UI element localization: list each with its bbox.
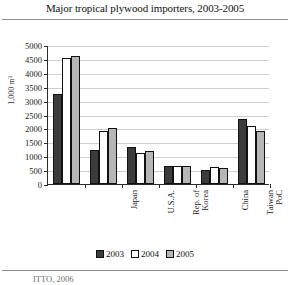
bar — [108, 128, 117, 184]
x-axis-label: TaiwanPoC — [266, 190, 284, 236]
bar-group — [233, 46, 270, 184]
bar-group — [122, 46, 159, 184]
y-tick-mark — [44, 185, 48, 186]
x-tick-mark — [233, 184, 234, 188]
chart-legend: 200320042005 — [0, 249, 290, 259]
bar-groups — [48, 46, 269, 184]
y-axis-title: 1,000 m³ — [7, 56, 16, 126]
legend-swatch — [166, 250, 174, 258]
page-title: Major tropical plywood importers, 2003-2… — [0, 2, 290, 15]
x-tick-mark — [196, 184, 197, 188]
y-tick-label: 4500 — [25, 56, 42, 65]
source-note: ITTO, 2006 — [33, 274, 73, 284]
legend-item[interactable]: 2003 — [96, 249, 124, 259]
legend-swatch — [96, 250, 104, 258]
bar — [136, 153, 145, 184]
footer-divider — [2, 270, 288, 271]
bar-group — [48, 46, 85, 184]
bar — [71, 56, 80, 184]
y-tick-label: 2500 — [25, 111, 42, 120]
bar — [182, 166, 191, 184]
bar — [201, 170, 210, 184]
y-tick-label: 2000 — [25, 125, 42, 134]
bar — [127, 147, 136, 184]
x-axis-label: Japan — [130, 190, 139, 250]
y-tick-label: 4000 — [25, 70, 42, 79]
y-tick-label: 500 — [29, 167, 42, 176]
bar-group — [159, 46, 196, 184]
bar — [62, 58, 71, 184]
bar — [164, 166, 173, 184]
x-axis-label: U.S.A. — [167, 190, 176, 250]
bar — [247, 126, 256, 184]
x-tick-mark — [159, 184, 160, 188]
bar — [210, 167, 219, 184]
legend-item[interactable]: 2005 — [166, 249, 194, 259]
legend-label: 2003 — [106, 249, 124, 259]
x-tick-mark — [85, 184, 86, 188]
y-tick-label: 0 — [38, 181, 42, 190]
bar-group — [196, 46, 233, 184]
x-tick-mark — [122, 184, 123, 188]
bar — [53, 94, 62, 184]
y-tick-label: 3500 — [25, 83, 42, 92]
bar — [99, 131, 108, 184]
bar — [173, 166, 182, 184]
plot-area: 0500100015002000250030003500400045005000 — [47, 46, 269, 185]
legend-label: 2004 — [141, 249, 159, 259]
y-tick-label: 1500 — [25, 139, 42, 148]
bar — [145, 151, 154, 184]
y-tick-label: 3000 — [25, 97, 42, 106]
legend-item[interactable]: 2004 — [131, 249, 159, 259]
bar — [219, 168, 228, 184]
bar — [256, 131, 265, 184]
bar — [90, 150, 99, 184]
x-axis-label: China — [241, 190, 250, 250]
x-tick-mark — [270, 184, 271, 188]
bar-group — [85, 46, 122, 184]
y-tick-label: 1000 — [25, 153, 42, 162]
legend-swatch — [131, 250, 139, 258]
title-divider — [2, 19, 288, 20]
x-axis-label: Rep. ofKorea — [192, 190, 210, 236]
chart-figure: Major tropical plywood importers, 2003-2… — [0, 0, 290, 285]
bar — [238, 119, 247, 184]
legend-label: 2005 — [176, 249, 194, 259]
y-tick-label: 5000 — [25, 42, 42, 51]
